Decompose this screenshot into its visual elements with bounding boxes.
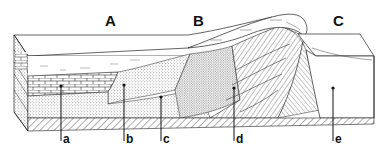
callout-label-b: b: [126, 133, 133, 145]
zone-label-c: C: [333, 13, 344, 28]
callout-label-c: c: [163, 133, 170, 145]
callout-label-a: a: [63, 133, 70, 145]
callout-label-d: d: [236, 133, 243, 145]
geologic-block-diagram: [0, 0, 384, 151]
zone-label-b: B: [193, 13, 204, 28]
block-base: [28, 118, 374, 131]
zone-label-a: A: [105, 13, 116, 28]
callout-label-e: e: [335, 133, 342, 145]
